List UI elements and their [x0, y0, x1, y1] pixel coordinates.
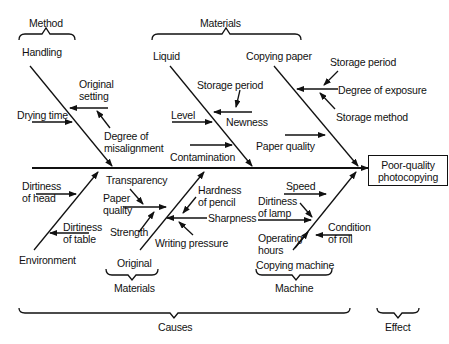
cause-newness: Newness	[226, 116, 268, 128]
bone-label-handling: Handling	[22, 46, 62, 58]
brace-method	[19, 28, 75, 40]
bone-label-copying-machine: Copying machine	[256, 259, 334, 271]
cause-transparency: Transparency	[106, 174, 167, 186]
bone-label-liquid: Liquid	[153, 50, 180, 62]
cause-paper-quality-original: Paper quality	[103, 192, 132, 216]
brace-materials-top	[152, 28, 301, 40]
group-label-effect: Effect	[385, 321, 410, 333]
brace-original-materials	[106, 269, 158, 280]
cause-strength: Strength	[110, 226, 148, 238]
group-label-materials-top: Materials	[200, 17, 241, 29]
cause-speed: Speed	[286, 180, 315, 192]
cause-paper-quality: Paper quality	[256, 140, 315, 152]
cause-storage-method: Storage method	[336, 111, 408, 123]
cause-hardness-pencil: Hardness of pencil	[198, 184, 241, 208]
cause-storage-period-liquid: Storage period	[197, 79, 263, 91]
cause-drying-time: Drying time	[17, 109, 68, 121]
cause-dirtiness-head: Dirtiness of head	[22, 180, 61, 204]
cause-sharpness: Sharpness	[208, 212, 256, 224]
arrow-degree-misalignment	[97, 111, 110, 128]
group-label-causes: Causes	[158, 321, 192, 333]
arrow-storage-period-paper	[324, 71, 338, 85]
bone-label-environment: Environment	[19, 254, 76, 266]
effect-line2: photocopying	[369, 171, 447, 183]
arrow-dirtiness-lamp	[300, 203, 312, 217]
cause-writing-pressure: Writing pressure	[155, 237, 228, 249]
effect-line1: Poor-quality	[369, 159, 447, 171]
arrow-storage-period-liquid	[236, 90, 240, 107]
cause-operating-hours: Operating hours	[258, 232, 302, 256]
cause-level: Level	[171, 109, 195, 121]
cause-contamination: Contamination	[170, 151, 235, 163]
group-label-method: Method	[29, 17, 63, 29]
brace-causes	[19, 308, 350, 318]
effect-box: Poor-quality photocopying	[368, 155, 448, 186]
cause-original-setting: Original setting	[79, 78, 114, 102]
group-label-materials-bottom: Materials	[114, 282, 155, 294]
arrow-hardness-pencil	[183, 197, 196, 213]
cause-degree-exposure: Degree of exposure	[338, 84, 427, 96]
arrow-writing-pressure	[179, 222, 193, 235]
arrow-storage-method	[320, 93, 335, 109]
group-label-original: Original	[117, 257, 152, 269]
brace-effect	[377, 308, 419, 318]
cause-storage-period-paper: Storage period	[330, 56, 396, 68]
cause-dirtiness-lamp: Dirtiness of lamp	[258, 195, 297, 219]
bone-label-copying-paper: Copying paper	[246, 50, 312, 62]
cause-dirtiness-table: Dirtiness of table	[63, 221, 102, 245]
group-label-machine: Machine	[275, 282, 313, 294]
cause-degree-misalignment: Degree of misalignment	[104, 130, 163, 154]
cause-condition-roll: Condition of roll	[328, 221, 371, 245]
